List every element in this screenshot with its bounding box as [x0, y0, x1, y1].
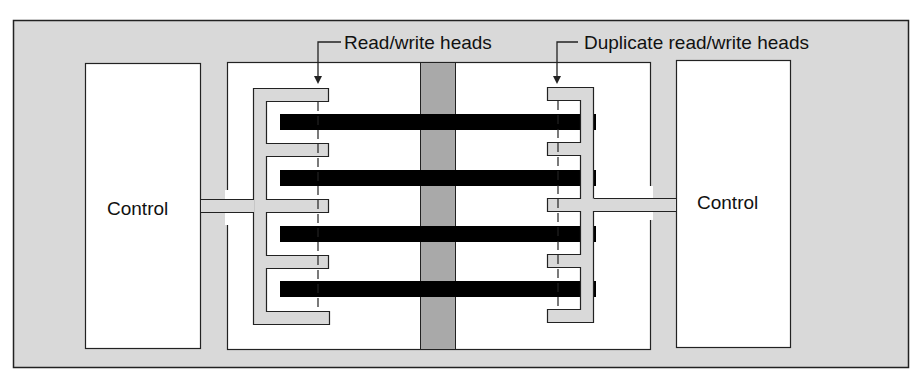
platter-3: [280, 226, 596, 242]
control-label-right: Control: [697, 192, 758, 213]
platter-4: [280, 281, 596, 297]
platter-2: [280, 170, 596, 186]
label-read-write-heads: Read/write heads: [344, 32, 492, 53]
label-duplicate-heads: Duplicate read/write heads: [584, 32, 809, 53]
spindle: [421, 63, 456, 350]
platter-1: [280, 114, 596, 130]
control-label-left: Control: [107, 198, 168, 219]
disk-drive-diagram: Control Control Read/write heads Duplica…: [0, 0, 911, 375]
